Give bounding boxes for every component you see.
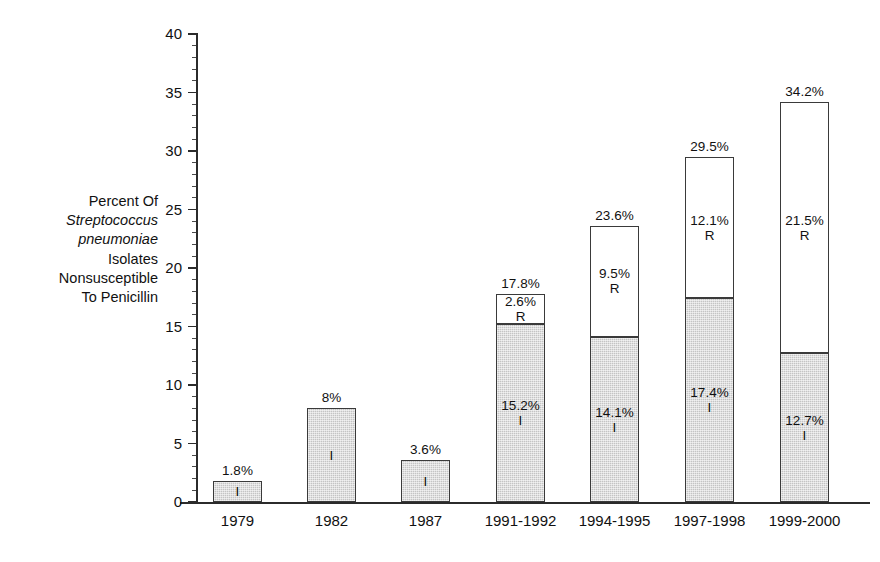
plot-area: I1.8%I8%I3.6%2.6%R15.2%I17.8%9.5%R14.1%I… bbox=[0, 0, 880, 562]
bar-segment-intermediate[interactable] bbox=[590, 337, 639, 502]
bar-segment-intermediate[interactable] bbox=[496, 324, 545, 502]
bar-segment-intermediate[interactable] bbox=[213, 481, 262, 502]
bar-1999-2000[interactable]: 21.5%R12.7%I34.2% bbox=[780, 102, 829, 502]
bar-total-label: 29.5% bbox=[690, 139, 728, 154]
bar-segment-intermediate[interactable] bbox=[780, 353, 829, 502]
bar-segment-resistant[interactable] bbox=[685, 157, 734, 299]
bar-1987[interactable]: I3.6% bbox=[401, 460, 450, 502]
bar-1979[interactable]: I1.8% bbox=[213, 481, 262, 502]
bar-1991-1992[interactable]: 2.6%R15.2%I17.8% bbox=[496, 294, 545, 502]
bar-1994-1995[interactable]: 9.5%R14.1%I23.6% bbox=[590, 226, 639, 502]
bar-total-label: 34.2% bbox=[785, 84, 823, 99]
bar-segment-intermediate[interactable] bbox=[307, 408, 356, 502]
x-tick-label: 1994-1995 bbox=[579, 512, 651, 529]
chart-figure: Percent OfStreptococcuspneumoniaeIsolate… bbox=[0, 0, 880, 562]
x-tick-label: 1997-1998 bbox=[674, 512, 746, 529]
x-tick-label: 1982 bbox=[315, 512, 348, 529]
x-tick-label: 1991-1992 bbox=[485, 512, 557, 529]
bar-total-label: 17.8% bbox=[501, 276, 539, 291]
bar-total-label: 23.6% bbox=[595, 208, 633, 223]
x-tick-label: 1999-2000 bbox=[769, 512, 841, 529]
figure-caption bbox=[36, 549, 456, 562]
bar-segment-resistant[interactable] bbox=[496, 294, 545, 324]
x-tick-label: 1987 bbox=[409, 512, 442, 529]
bar-total-label: 8% bbox=[322, 390, 342, 405]
bar-1997-1998[interactable]: 12.1%R17.4%I29.5% bbox=[685, 157, 734, 502]
bar-total-label: 1.8% bbox=[222, 463, 253, 478]
bar-segment-resistant[interactable] bbox=[780, 102, 829, 354]
bar-segment-intermediate[interactable] bbox=[401, 460, 450, 502]
bar-segment-intermediate[interactable] bbox=[685, 298, 734, 502]
bar-1982[interactable]: I8% bbox=[307, 408, 356, 502]
x-tick-label: 1979 bbox=[221, 512, 254, 529]
bar-total-label: 3.6% bbox=[410, 442, 441, 457]
bar-segment-resistant[interactable] bbox=[590, 226, 639, 337]
